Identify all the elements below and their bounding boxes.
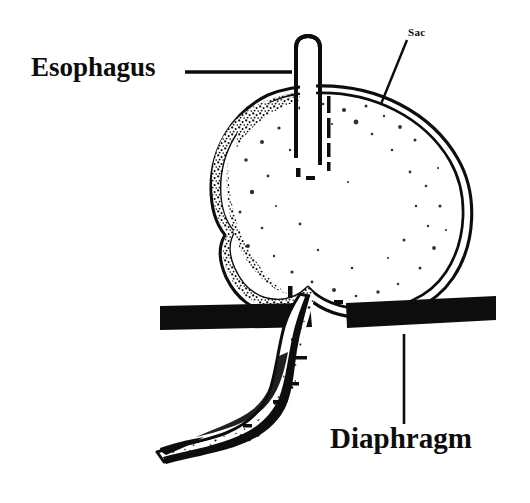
hernia-sac-group — [200, 80, 472, 330]
sac-label: Sac — [408, 26, 425, 39]
esophagus-label: Esophagus — [31, 52, 156, 82]
figure-canvas: Esophagus Sac Diaphragm — [0, 0, 530, 503]
sac-inner-outline — [220, 93, 463, 309]
sac-leader-line — [381, 40, 407, 104]
esophagus-tube-lumen — [300, 47, 316, 156]
esophagus-tube-top-cap — [296, 36, 320, 48]
diaphragm-label: Diaphragm — [330, 422, 472, 454]
